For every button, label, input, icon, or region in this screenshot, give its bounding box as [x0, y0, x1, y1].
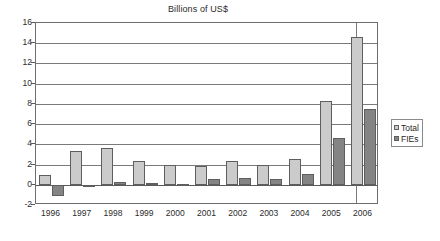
- bar-fies-1996: [52, 185, 64, 196]
- x-axis-tick-label: 2004: [291, 208, 310, 218]
- bar-fies-2006: [364, 109, 376, 184]
- y-axis-tick: [31, 204, 35, 205]
- bar-fies-2001: [208, 179, 220, 185]
- x-axis-tick-label: 1998: [103, 208, 122, 218]
- bar-total-2006: [351, 37, 363, 185]
- chart-legend: Total FIEs: [391, 119, 423, 147]
- gridline: [36, 63, 377, 64]
- bar-total-2003: [257, 165, 269, 185]
- x-axis-tick-label: 1999: [135, 208, 154, 218]
- bar-total-1998: [101, 148, 113, 185]
- x-axis-tick-label: 2005: [322, 208, 341, 218]
- x-axis-tick-label: 2003: [259, 208, 278, 218]
- y-axis-tick-label: 10: [2, 78, 32, 88]
- y-axis-tick-label: 0: [2, 179, 32, 189]
- x-axis-tick-label: 1996: [41, 208, 60, 218]
- y-axis-tick-label: 4: [2, 138, 32, 148]
- bar-total-2004: [289, 159, 301, 185]
- bar-fies-2004: [302, 174, 314, 185]
- y-axis-tick-label: 8: [2, 98, 32, 108]
- x-axis-tick-label: 2000: [166, 208, 185, 218]
- y-axis-tick-label: 6: [2, 118, 32, 128]
- legend-label-fies: FIEs: [401, 134, 418, 144]
- y-axis-tick-label: 2: [2, 159, 32, 169]
- bar-total-1997: [70, 151, 82, 185]
- bar-total-2000: [164, 165, 176, 185]
- x-axis: 1996199719981999200020012002200320042005…: [35, 208, 378, 226]
- bar-fies-2002: [239, 178, 251, 185]
- x-axis-tick-label: 2006: [353, 208, 372, 218]
- bar-fies-2003: [270, 179, 282, 185]
- x-axis-tick-label: 1997: [72, 208, 91, 218]
- bar-total-2001: [195, 166, 207, 185]
- bar-total-1999: [133, 161, 145, 185]
- gridline: [36, 43, 377, 44]
- legend-item-fies[interactable]: FIEs: [394, 133, 419, 144]
- bar-total-2002: [226, 161, 238, 185]
- bar-total-1996: [39, 175, 51, 185]
- bar-fies-1998: [114, 182, 126, 185]
- legend-swatch-fies-icon: [394, 136, 399, 141]
- y-axis-tick-label: 14: [2, 37, 32, 47]
- y-axis-tick-label: -2: [2, 199, 32, 209]
- y-axis-tick-label: 16: [2, 17, 32, 27]
- x-axis-tick-label: 2001: [197, 208, 216, 218]
- legend-item-total[interactable]: Total: [394, 122, 419, 133]
- bar-chart: Billions of US$ -20246810121416 19961997…: [0, 0, 440, 241]
- x-axis-tick-label: 2002: [228, 208, 247, 218]
- bar-fies-2000: [177, 184, 189, 186]
- bar-total-2005: [320, 101, 332, 185]
- y-axis: -20246810121416: [0, 22, 32, 204]
- gridline: [36, 84, 377, 85]
- bar-fies-2005: [333, 138, 345, 185]
- bar-fies-1997: [83, 185, 95, 187]
- plot-area: [35, 22, 378, 204]
- y-axis-tick-label: 12: [2, 57, 32, 67]
- bar-fies-1999: [146, 183, 158, 185]
- chart-title: Billions of US$: [0, 4, 396, 14]
- legend-swatch-total-icon: [394, 125, 399, 130]
- legend-label-total: Total: [401, 123, 419, 133]
